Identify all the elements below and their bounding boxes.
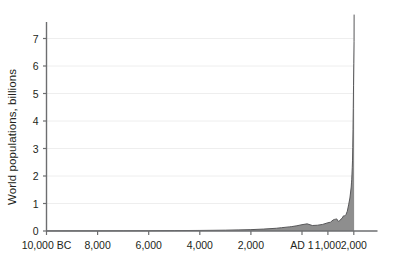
plot-area bbox=[0, 0, 399, 259]
x-tick-label: AD 1 bbox=[290, 239, 313, 251]
x-tick-label: 6,000 bbox=[136, 239, 162, 251]
x-tick-label: 2,000 bbox=[238, 239, 264, 251]
x-tick-label: 10,000 BC bbox=[22, 239, 72, 251]
population-line-series bbox=[47, 15, 355, 231]
x-tick-label: 2,000 bbox=[341, 239, 367, 251]
y-tick-label: 1 bbox=[23, 198, 39, 210]
y-tick-label: 0 bbox=[23, 225, 39, 237]
y-tick-label: 6 bbox=[23, 60, 39, 72]
y-tick-label: 4 bbox=[23, 115, 39, 127]
population-area-series bbox=[47, 15, 355, 231]
x-tick-label: 4,000 bbox=[187, 239, 213, 251]
y-tick-label: 2 bbox=[23, 170, 39, 182]
x-tick-label: 1,000 bbox=[315, 239, 341, 251]
gridlines bbox=[47, 39, 354, 204]
y-tick-label: 3 bbox=[23, 143, 39, 155]
y-tick-label: 7 bbox=[23, 33, 39, 45]
x-tick-label: 8,000 bbox=[84, 239, 110, 251]
y-tick-label: 5 bbox=[23, 88, 39, 100]
chart-figure: World populations, billions 01234567 10,… bbox=[0, 0, 399, 259]
